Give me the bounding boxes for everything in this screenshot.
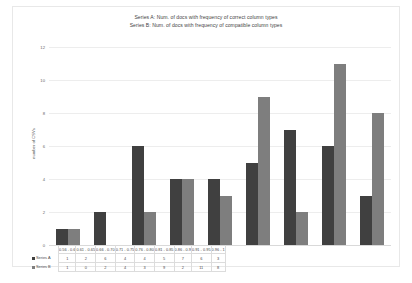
value-cell: 4 bbox=[115, 254, 135, 263]
category-label-cell: 0.56 - 0.6 bbox=[59, 245, 76, 254]
bar-series-a bbox=[208, 179, 220, 245]
bar-series-a bbox=[246, 163, 258, 246]
table-row: Series B1024392118 bbox=[31, 263, 225, 272]
y-tick-label: 8 bbox=[43, 111, 45, 116]
bar-series-b bbox=[144, 212, 156, 245]
value-cell: 9 bbox=[154, 263, 174, 272]
data-table: 0.56 - 0.60.61 - 0.650.66 - 0.700.71 - 0… bbox=[31, 245, 226, 272]
y-tick-label: 12 bbox=[40, 45, 45, 50]
y-axis-ticks: 121086420 bbox=[31, 47, 47, 245]
value-cell: 4 bbox=[135, 254, 155, 263]
bar-series-b bbox=[334, 64, 346, 246]
bar-group bbox=[125, 47, 163, 245]
bar-group bbox=[49, 47, 87, 245]
chart-title: Series A: Num. of docs with frequency of… bbox=[13, 14, 399, 29]
value-cell: 4 bbox=[115, 263, 135, 272]
category-label-cell: 0.81 - 0.85 bbox=[154, 245, 174, 254]
legend-item-series-a: Series A bbox=[31, 254, 59, 263]
bar-group bbox=[201, 47, 239, 245]
table-corner-cell bbox=[31, 245, 59, 254]
value-cell: 2 bbox=[76, 254, 96, 263]
grid-area bbox=[49, 47, 391, 245]
bar-series-b bbox=[258, 97, 270, 246]
bar-series-a bbox=[322, 146, 334, 245]
value-cell: 3 bbox=[135, 263, 155, 272]
bar-series-a bbox=[284, 130, 296, 246]
legend-label: Series A bbox=[36, 256, 51, 261]
bar-series-b bbox=[182, 179, 194, 245]
bar-group bbox=[277, 47, 315, 245]
value-cell: 1 bbox=[59, 263, 76, 272]
table-row-categories: 0.56 - 0.60.61 - 0.650.66 - 0.700.71 - 0… bbox=[31, 245, 225, 254]
y-tick-label: 4 bbox=[43, 177, 45, 182]
bars-layer bbox=[49, 47, 391, 245]
y-tick-label: 6 bbox=[43, 144, 45, 149]
bar-group bbox=[315, 47, 353, 245]
y-tick-label: 2 bbox=[43, 210, 45, 215]
value-cell: 0 bbox=[76, 263, 96, 272]
value-cell: 7 bbox=[174, 254, 191, 263]
table-row: Series A126445763 bbox=[31, 254, 225, 263]
bar-group bbox=[87, 47, 125, 245]
bar-series-a bbox=[94, 212, 106, 245]
value-cell: 3 bbox=[211, 254, 225, 263]
legend-swatch-icon bbox=[32, 257, 35, 260]
category-label-cell: 0.76 - 0.80 bbox=[135, 245, 155, 254]
legend-item-series-b: Series B bbox=[31, 263, 59, 272]
category-label-cell: 0.86 - 0.9 bbox=[174, 245, 191, 254]
value-cell: 8 bbox=[211, 263, 225, 272]
bar-series-a bbox=[170, 179, 182, 245]
value-cell: 11 bbox=[191, 263, 211, 272]
value-cell: 6 bbox=[191, 254, 211, 263]
value-cell: 6 bbox=[96, 254, 116, 263]
category-label-cell: 0.96 - 1 bbox=[211, 245, 225, 254]
chart-container: Series A: Num. of docs with frequency of… bbox=[12, 6, 400, 267]
data-table-body: 0.56 - 0.60.61 - 0.650.66 - 0.700.71 - 0… bbox=[31, 245, 225, 272]
bar-group bbox=[353, 47, 391, 245]
bar-series-b bbox=[372, 113, 384, 245]
category-label-cell: 0.61 - 0.65 bbox=[76, 245, 96, 254]
bar-series-a bbox=[56, 229, 68, 246]
value-cell: 2 bbox=[96, 263, 116, 272]
bar-group bbox=[163, 47, 201, 245]
value-cell: 1 bbox=[59, 254, 76, 263]
bar-series-a bbox=[132, 146, 144, 245]
category-label-cell: 0.66 - 0.70 bbox=[96, 245, 116, 254]
bar-series-b bbox=[220, 196, 232, 246]
plot-area: number of CSVs 121086420 bbox=[31, 47, 391, 245]
value-cell: 5 bbox=[154, 254, 174, 263]
bar-series-b bbox=[296, 212, 308, 245]
category-label-cell: 0.91 - 0.95 bbox=[191, 245, 211, 254]
bar-group bbox=[239, 47, 277, 245]
legend-swatch-icon bbox=[32, 266, 35, 269]
category-label-cell: 0.71 - 0.75 bbox=[115, 245, 135, 254]
legend-label: Series B bbox=[36, 265, 51, 270]
y-tick-label: 10 bbox=[40, 78, 45, 83]
bar-series-a bbox=[360, 196, 372, 246]
chart-title-line-1: Series A: Num. of docs with frequency of… bbox=[13, 14, 399, 22]
chart-title-line-2: Series B: Num. of docs with frequency of… bbox=[13, 22, 399, 30]
value-cell: 2 bbox=[174, 263, 191, 272]
bar-series-b bbox=[68, 229, 80, 246]
